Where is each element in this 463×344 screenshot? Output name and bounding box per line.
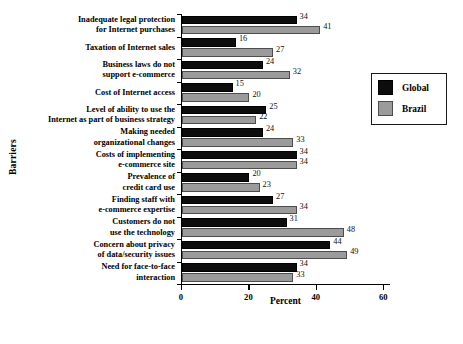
plot-area: 3441162724321520252224333434202327343148… xyxy=(181,14,390,284)
bar-value-label: 20 xyxy=(252,169,260,178)
bar-group: 2023 xyxy=(182,172,390,195)
y-axis-tick xyxy=(177,104,182,105)
category-label-line: Cost of Internet access xyxy=(95,88,175,98)
bar-group: 1627 xyxy=(182,37,390,60)
category-label: Inadequate legal protectionfor Internet … xyxy=(20,14,178,37)
bar-brazil xyxy=(182,71,290,80)
bar-global xyxy=(182,151,297,160)
category-label-line: Business laws do not xyxy=(102,60,175,70)
bar-brazil xyxy=(182,138,293,147)
category-label-line: Need for face-to-face xyxy=(101,262,175,272)
bar-global xyxy=(182,263,297,272)
y-axis-tick xyxy=(177,239,182,240)
category-label: Business laws do notsupport e-commerce xyxy=(20,59,178,82)
category-label-line: Finding staff with xyxy=(112,195,175,205)
bar-group: 3441 xyxy=(182,14,390,37)
y-axis-tick xyxy=(177,172,182,173)
bar-global xyxy=(182,38,236,47)
y-axis-title: Barriers xyxy=(8,122,18,192)
bar-brazil xyxy=(182,228,344,237)
bar-global xyxy=(182,83,233,92)
bar-global xyxy=(182,241,330,250)
legend-swatch-brazil xyxy=(378,101,393,116)
x-axis-tick xyxy=(316,285,317,290)
bar-value-label: 27 xyxy=(276,192,284,201)
bar-global xyxy=(182,61,263,70)
category-label-line: credit card use xyxy=(123,183,175,193)
bar-value-label: 31 xyxy=(290,214,298,223)
bar-value-label: 49 xyxy=(350,247,358,256)
category-label: Prevalence ofcredit card use xyxy=(20,172,178,195)
legend-swatch-global xyxy=(378,80,393,95)
bar-value-label: 25 xyxy=(269,102,277,111)
bar-group: 4449 xyxy=(182,239,390,262)
bar-value-label: 24 xyxy=(266,57,274,66)
bar-value-label: 27 xyxy=(276,45,284,54)
category-label-line: Customers do not xyxy=(112,217,175,227)
bar-brazil xyxy=(182,93,249,102)
bar-brazil xyxy=(182,251,347,260)
bar-global xyxy=(182,16,297,25)
y-axis-tick xyxy=(177,14,182,15)
bar-value-label: 15 xyxy=(236,79,244,88)
bar-value-label: 23 xyxy=(263,180,271,189)
category-label: Making neededorganizational changes xyxy=(20,127,178,150)
category-label-line: interaction xyxy=(136,273,175,283)
bar-value-label: 44 xyxy=(333,237,341,246)
bar-group: 2432 xyxy=(182,59,390,82)
bar-value-label: 22 xyxy=(259,112,267,121)
y-axis-tick xyxy=(177,59,182,60)
category-label-line: Taxation of Internet sales xyxy=(85,43,175,53)
bar-global xyxy=(182,128,263,137)
bar-value-label: 48 xyxy=(347,225,355,234)
x-axis-tick xyxy=(248,285,249,290)
category-label: Costs of implementinge-commerce site xyxy=(20,149,178,172)
bar-group: 1520 xyxy=(182,82,390,105)
category-label-line: Concern about privacy xyxy=(93,240,175,250)
category-label: Customers do notuse the technology xyxy=(20,217,178,240)
bar-brazil xyxy=(182,273,293,282)
category-label-line: of data/security issues xyxy=(98,250,175,260)
bar-value-label: 34 xyxy=(300,157,308,166)
category-label-line: Level of ability to use the xyxy=(86,105,175,115)
bar-group: 3434 xyxy=(182,149,390,172)
bar-value-label: 41 xyxy=(323,22,331,31)
category-label-line: organizational changes xyxy=(94,138,175,148)
y-axis-tick xyxy=(177,149,182,150)
category-label: Cost of Internet access xyxy=(20,82,178,105)
bar-group: 2433 xyxy=(182,127,390,150)
bar-brazil xyxy=(182,161,297,170)
bar-global xyxy=(182,106,266,115)
y-axis-tick xyxy=(177,127,182,128)
x-axis-tick xyxy=(383,285,384,290)
y-axis-tick xyxy=(177,82,182,83)
category-label: Concern about privacyof data/security is… xyxy=(20,239,178,262)
bar-value-label: 34 xyxy=(300,259,308,268)
bar-global xyxy=(182,196,273,205)
category-label: Taxation of Internet sales xyxy=(20,37,178,60)
bar-global xyxy=(182,173,249,182)
bar-value-label: 34 xyxy=(300,147,308,156)
category-label: Level of ability to use theInternet as p… xyxy=(20,104,178,127)
bar-brazil xyxy=(182,183,260,192)
bar-group: 2522 xyxy=(182,104,390,127)
legend-item: Global xyxy=(378,80,429,95)
category-label: Finding staff withe-commerce expertise xyxy=(20,194,178,217)
bar-value-label: 24 xyxy=(266,124,274,133)
category-label: Need for face-to-faceinteraction xyxy=(20,262,178,285)
y-axis-tick xyxy=(177,217,182,218)
bar-group: 3148 xyxy=(182,217,390,240)
bar-value-label: 20 xyxy=(252,90,260,99)
bar-value-label: 32 xyxy=(293,67,301,76)
category-label-line: e-commerce expertise xyxy=(98,205,175,215)
category-label-line: Internet as part of business strategy xyxy=(48,115,175,125)
bar-value-label: 33 xyxy=(296,270,304,279)
bar-value-label: 34 xyxy=(300,202,308,211)
category-label-line: Making needed xyxy=(120,127,175,137)
x-axis-tick xyxy=(181,285,182,290)
bar-chart: Barriers Inadequate legal protectionfor … xyxy=(0,0,463,344)
bar-group: 3433 xyxy=(182,262,390,285)
bar-brazil xyxy=(182,206,297,215)
bar-brazil xyxy=(182,26,320,35)
bar-global xyxy=(182,218,287,227)
